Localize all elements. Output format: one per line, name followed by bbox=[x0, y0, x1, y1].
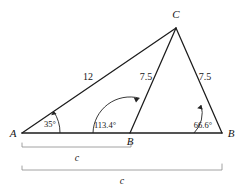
triangle-diagram: A B B C 12 7.5 7.5 35° 113.4° 66.6° c c bbox=[0, 0, 240, 189]
brace-short bbox=[22, 141, 131, 147]
vertex-label-a: A bbox=[9, 127, 17, 139]
vertex-label-b2: B bbox=[228, 127, 235, 139]
brace-label-short: c bbox=[75, 152, 80, 163]
brace-label-long: c bbox=[120, 175, 125, 186]
angle-label-b1: 113.4° bbox=[94, 120, 116, 130]
brace-long bbox=[22, 164, 222, 170]
angle-label-b2: 66.6° bbox=[194, 120, 212, 130]
side-label-b2c: 7.5 bbox=[199, 71, 212, 82]
angle-label-a: 35° bbox=[44, 119, 56, 129]
angle-arrow-b1 bbox=[134, 98, 140, 103]
side-label-b1c: 7.5 bbox=[140, 71, 153, 82]
side-label-ac: 12 bbox=[83, 71, 93, 82]
vertex-label-c: C bbox=[172, 8, 180, 20]
vertex-label-b1: B bbox=[127, 135, 134, 147]
diagram-canvas: A B B C 12 7.5 7.5 35° 113.4° 66.6° c c bbox=[0, 0, 240, 189]
